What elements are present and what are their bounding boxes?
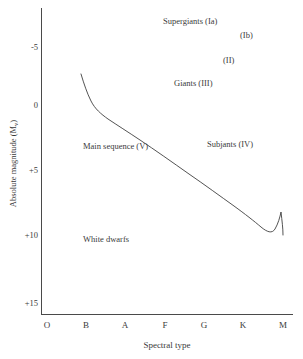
x-tick-label-m: M — [275, 320, 291, 331]
region-label-subgiants-iv: Subjants (IV) — [207, 139, 253, 149]
region-label-white-dwarfs: White dwarfs — [83, 234, 129, 244]
main-sequence-curve — [0, 0, 303, 359]
x-axis-title: Spectral type — [41, 340, 293, 351]
y-tick-label-plus10: +10 — [14, 231, 38, 240]
region-label-bright-giants-ii: (II) — [223, 55, 234, 65]
y-axis-title-main: Absolute magnitude (M — [8, 126, 18, 207]
y-tick-label-minus5: -5 — [14, 43, 38, 52]
x-tick-label-k: K — [235, 320, 251, 331]
hr-diagram: -5 0 +5 +10 +15 O B A F G K M Absolute m… — [0, 0, 303, 359]
x-tick-label-b: B — [78, 320, 94, 331]
y-axis-title-subscript: v — [12, 123, 19, 126]
region-label-supergiants-ib: (Ib) — [240, 30, 253, 40]
region-label-giants-iii: Giants (III) — [174, 78, 212, 88]
x-tick-label-a: A — [117, 320, 133, 331]
x-tick-label-g: G — [196, 320, 212, 331]
x-tick-label-f: F — [157, 320, 173, 331]
x-tick-label-o: O — [39, 320, 55, 331]
main-sequence-path — [81, 74, 283, 235]
y-tick-label-plus15: +15 — [14, 299, 38, 308]
region-label-supergiants-ia: Supergiants (Ia) — [163, 16, 217, 26]
region-label-main-sequence-v: Main sequence (V) — [83, 141, 148, 151]
x-axis-line — [41, 314, 293, 315]
y-axis-title: Absolute magnitude (Mv) — [8, 99, 19, 229]
y-axis-line — [41, 8, 42, 315]
